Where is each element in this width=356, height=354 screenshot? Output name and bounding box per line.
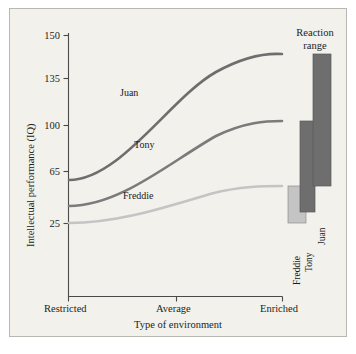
y-tick-label-100: 100 — [34, 121, 60, 132]
x-tick-label-restricted: Restricted — [44, 304, 87, 315]
x-axis-title: Type of environment — [134, 320, 222, 331]
y-axis-title: Intellectual performance (IQ) — [26, 123, 37, 247]
reaction-range-title-line2: range — [282, 40, 348, 52]
bar-label-tony: Tony — [305, 253, 315, 272]
bar-label-freddie: Freddie — [293, 256, 303, 285]
x-tick-label-enriched: Enriched — [260, 304, 298, 315]
curve-label-tony: Tony — [134, 140, 154, 150]
y-tick-label-135: 135 — [34, 74, 60, 85]
reaction-range-title-line1: Reaction — [282, 27, 348, 39]
curve-label-juan: Juan — [120, 88, 138, 98]
figure-container: 150 135 100 65 25 Intellectual performan… — [0, 0, 356, 354]
y-tick-label-150: 150 — [34, 31, 60, 42]
bar-label-juan: Juan — [318, 228, 328, 245]
curve-label-freddie: Freddie — [123, 191, 154, 201]
y-tick-label-65: 65 — [34, 167, 60, 178]
y-tick-label-25: 25 — [34, 219, 60, 230]
x-tick-label-average: Average — [156, 304, 191, 315]
